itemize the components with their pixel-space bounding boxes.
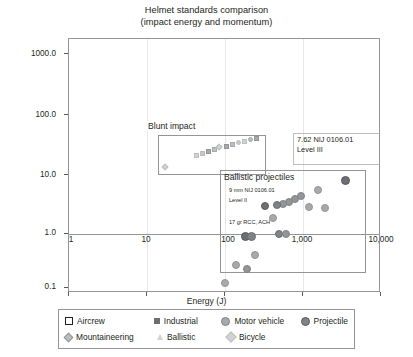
data-point-proj-18 [243, 265, 251, 273]
plot-area: Blunt impact 7.62 NIJ 0106.01 Level III … [68, 38, 380, 292]
open-square-icon [65, 317, 73, 325]
y-tick-label-100: 100.0 [8, 110, 56, 119]
circle-dark-icon [301, 317, 310, 326]
y-tick-label-10: 10.0 [8, 170, 56, 179]
legend-label-ballistic: Ballistic [167, 332, 195, 342]
legend-label-motor-vehicle: Motor vehicle [234, 316, 284, 326]
nine-mm-label: 9 mm NIJ 0106.01 [229, 187, 275, 194]
blunt-impact-label: Blunt impact [147, 121, 196, 131]
data-point-blunt-12 [254, 136, 259, 141]
legend-item-mountaineering[interactable]: Mountaineering [65, 332, 157, 342]
data-point-blunt-4 [206, 149, 211, 154]
legend-label-bicycle: Bicycle [239, 332, 266, 342]
chart-title-line-1: Helmet standards comparison [0, 4, 413, 16]
filled-square-icon [154, 318, 160, 324]
gridline-x-10 [147, 39, 148, 291]
data-point-blunt-3 [200, 151, 205, 156]
chart-figure: Helmet standards comparison (impact ener… [0, 0, 413, 357]
data-point-proj-13 [282, 230, 290, 238]
legend-label-aircrew: Aircrew [77, 316, 105, 326]
data-point-proj-16 [251, 251, 259, 259]
chart-legend: Aircrew Industrial Motor vehicle Project… [58, 309, 355, 349]
legend-item-projectile[interactable]: Projectile [301, 316, 348, 326]
seven-six-two-level-label: Level III [297, 145, 323, 155]
x-tick-label-10000: 10,000 [368, 235, 393, 244]
data-point-blunt-10 [242, 139, 247, 144]
data-point-proj-1 [341, 176, 350, 185]
x-axis-label: Energy (J) [0, 296, 413, 306]
data-point-blunt-8 [230, 142, 235, 147]
x-tick-label-1: 1 [69, 235, 74, 244]
data-point-blunt-2 [194, 153, 199, 158]
seventeen-gr-label: 17 gr RCC, ACH [229, 219, 270, 226]
x-tick-label-10: 10 [141, 235, 150, 244]
seven-six-two-label: 7.62 NIJ 0106.01 [297, 135, 353, 145]
data-point-proj-2 [314, 186, 322, 194]
data-point-proj-10 [261, 202, 269, 210]
data-point-proj-3 [321, 204, 329, 212]
data-point-proj-19 [221, 279, 229, 287]
triangle-icon [157, 334, 163, 340]
y-tick-label-1: 1.0 [8, 228, 56, 237]
data-point-proj-9 [273, 201, 281, 209]
nine-mm-level-label: Level II [229, 197, 247, 204]
legend-item-industrial[interactable]: Industrial [154, 316, 222, 326]
legend-row-1: Aircrew Industrial Motor vehicle Project… [65, 313, 348, 329]
data-point-blunt-9 [236, 140, 241, 145]
chart-title: Helmet standards comparison (impact ener… [0, 4, 413, 28]
data-point-blunt-11 [248, 137, 253, 142]
y-tick-label-0-1: 0.1 [8, 282, 56, 291]
legend-item-bicycle[interactable]: Bicycle [227, 332, 266, 342]
data-point-proj-15 [247, 232, 256, 241]
chart-title-line-2: (impact energy and momentum) [0, 16, 413, 28]
star-icon [225, 331, 236, 342]
legend-row-2: Mountaineering Ballistic Bicycle [65, 329, 348, 345]
data-point-blunt-7 [224, 144, 229, 149]
y-tick-label-1000: 1000.0 [8, 49, 56, 58]
legend-label-industrial: Industrial [164, 316, 198, 326]
circle-icon [221, 317, 230, 326]
legend-item-aircrew[interactable]: Aircrew [65, 316, 154, 326]
legend-label-mountaineering: Mountaineering [76, 332, 134, 342]
data-point-proj-4 [305, 203, 313, 211]
ballistic-projectiles-label: Ballistic projectiles [223, 172, 295, 182]
x-tick-label-100: 100 [221, 235, 235, 244]
legend-item-ballistic[interactable]: Ballistic [157, 332, 227, 342]
data-point-proj-11 [269, 214, 277, 222]
data-point-proj-17 [232, 261, 240, 269]
legend-label-projectile: Projectile [314, 316, 348, 326]
x-tick-label-1000: 1,000 [292, 235, 313, 244]
diamond-icon [64, 332, 74, 342]
legend-item-motor-vehicle[interactable]: Motor vehicle [221, 316, 300, 326]
